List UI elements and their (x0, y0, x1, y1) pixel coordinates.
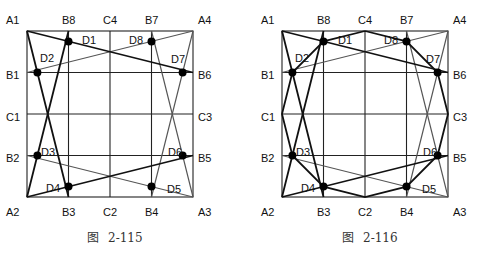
label-C1: C1 (6, 111, 20, 123)
label-D7: D7 (171, 53, 185, 65)
label-D3: D3 (296, 146, 310, 158)
label-B8: B8 (62, 14, 75, 26)
label-B5: B5 (198, 152, 211, 164)
label-C2: C2 (358, 206, 372, 218)
label-A2: A2 (261, 206, 274, 218)
label-A4: A4 (453, 14, 466, 26)
label-B1: B1 (261, 69, 274, 81)
label-A3: A3 (198, 206, 211, 218)
caption-number: 2-116 (363, 231, 398, 245)
label-C4: C4 (358, 14, 372, 26)
label-B7: B7 (145, 14, 158, 26)
label-D8: D8 (129, 34, 143, 46)
label-C2: C2 (103, 206, 117, 218)
label-B7: B7 (400, 14, 413, 26)
label-B4: B4 (145, 206, 158, 218)
figure-2-115: A1 B8 C4 B7 A4 B1 C1 B2 B6 C3 B5 A2 B3 C… (6, 14, 212, 245)
label-D4: D4 (46, 182, 60, 194)
label-A2: A2 (6, 206, 19, 218)
label-D5: D5 (422, 183, 436, 195)
label-B1: B1 (6, 69, 19, 81)
label-A4: A4 (198, 14, 211, 26)
label-B3: B3 (62, 206, 75, 218)
label-D1: D1 (82, 34, 96, 46)
label-C3: C3 (198, 111, 212, 123)
label-D2: D2 (40, 52, 54, 64)
label-B8: B8 (317, 14, 330, 26)
label-B2: B2 (6, 152, 19, 164)
label-B2: B2 (261, 152, 274, 164)
label-D7: D7 (426, 53, 440, 65)
label-D5: D5 (167, 183, 181, 195)
label-D1: D1 (338, 34, 352, 46)
label-A1: A1 (261, 14, 274, 26)
figure-2-116: A1 B8 C4 B7 A4 B1 C1 B2 B6 C3 B5 A2 B3 C… (261, 14, 467, 245)
diagram-canvas: A1 B8 C4 B7 A4 B1 C1 B2 B6 C3 B5 A2 B3 C… (0, 0, 477, 253)
label-D4: D4 (301, 182, 315, 194)
label-D3: D3 (41, 146, 55, 158)
label-B5: B5 (453, 152, 466, 164)
label-D6: D6 (168, 146, 182, 158)
label-D2: D2 (295, 52, 309, 64)
label-C4: C4 (103, 14, 117, 26)
label-C1: C1 (261, 111, 275, 123)
label-D8: D8 (384, 34, 398, 46)
caption-number: 2-115 (108, 231, 143, 245)
caption-prefix: 图 (342, 231, 354, 245)
caption-prefix: 图 (87, 231, 99, 245)
label-B4: B4 (400, 206, 413, 218)
label-B3: B3 (317, 206, 330, 218)
label-D6: D6 (423, 146, 437, 158)
label-B6: B6 (453, 69, 466, 81)
label-B6: B6 (198, 69, 211, 81)
label-A1: A1 (6, 14, 19, 26)
label-A3: A3 (453, 206, 466, 218)
label-C3: C3 (453, 111, 467, 123)
